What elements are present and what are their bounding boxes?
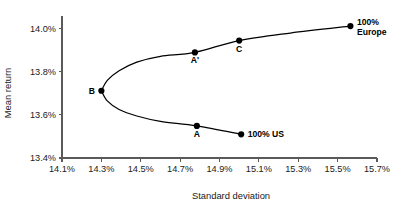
efficient-frontier-chart: 13.4%13.6%13.8%14.0% 14.1%14.3%14.5%14.7… xyxy=(0,0,401,208)
y-tick-label: 13.6% xyxy=(30,110,56,120)
y-axis-title: Mean return xyxy=(2,68,13,119)
x-tick-label: 14.7% xyxy=(167,164,193,174)
x-tick-label: 15.5% xyxy=(325,164,351,174)
point-label-europe: Europe xyxy=(357,27,387,37)
chart-container: 13.4%13.6%13.8%14.0% 14.1%14.3%14.5%14.7… xyxy=(0,0,401,208)
x-tick-label: 14.9% xyxy=(206,164,232,174)
x-tick-label: 14.3% xyxy=(88,164,114,174)
data-point-B xyxy=(98,88,104,94)
y-tick-label: 13.4% xyxy=(30,153,56,163)
x-tick-label: 14.5% xyxy=(128,164,154,174)
point-label-A: A xyxy=(194,129,200,139)
x-tick-label: 15.1% xyxy=(246,164,272,174)
y-tick-label: 13.8% xyxy=(30,67,56,77)
point-label-us: 100% US xyxy=(248,129,285,139)
data-point-europe xyxy=(347,23,353,29)
x-tick-label: 15.7% xyxy=(364,164,390,174)
x-tick-label: 15.3% xyxy=(285,164,311,174)
point-label-C: C xyxy=(236,44,242,54)
point-label-europe: 100% xyxy=(357,17,379,27)
x-tick-label: 14.1% xyxy=(49,164,75,174)
data-point-us xyxy=(238,131,244,137)
y-tick-label: 14.0% xyxy=(30,24,56,34)
point-label-B: B xyxy=(89,86,95,96)
x-axis-title: Standard deviation xyxy=(192,190,270,201)
point-label-A-prime: A' xyxy=(191,55,199,65)
chart-background xyxy=(0,0,401,208)
